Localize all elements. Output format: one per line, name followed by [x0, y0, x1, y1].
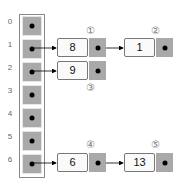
- pointer-dot-icon: [162, 45, 167, 50]
- pointer-dot-icon: [95, 160, 100, 165]
- node-value: 1: [124, 38, 155, 57]
- node-value: 9: [57, 61, 88, 80]
- node-pointer: [156, 38, 173, 57]
- pointer-dot-icon: [162, 160, 167, 165]
- node-label-5: ⑤: [148, 139, 162, 150]
- pointer-dot-icon: [95, 68, 100, 73]
- pointer-dot-icon: [95, 45, 100, 50]
- node-pointer: [89, 38, 106, 57]
- node-value: 13: [124, 153, 155, 172]
- node-value: 6: [57, 153, 88, 172]
- node-value: 8: [57, 38, 88, 57]
- node-label-2: ②: [148, 25, 162, 36]
- node-label-4: ④: [83, 139, 97, 150]
- node-pointer: [89, 153, 106, 172]
- node-label-3: ③: [83, 82, 97, 93]
- node-label-1: ①: [83, 25, 97, 36]
- node-pointer: [156, 153, 173, 172]
- node-pointer: [89, 61, 106, 80]
